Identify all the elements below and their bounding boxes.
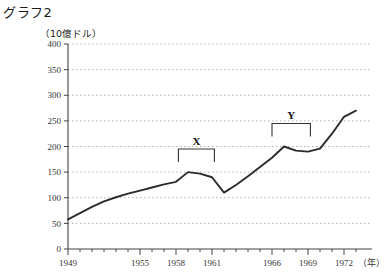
y-axis-tick-label: 150	[48, 167, 62, 177]
y-axis-tick-label: 50	[52, 219, 62, 229]
x-axis-group: 1949195519581961196619691972（年）	[59, 44, 384, 268]
gridlines-group	[68, 44, 372, 223]
x-axis-tick-label: 1961	[203, 258, 221, 268]
y-axis-tick-label: 0	[57, 244, 62, 254]
x-axis-tick-label: 1955	[131, 258, 150, 268]
y-axis-tick-label: 300	[48, 90, 62, 100]
x-axis-tick-label: 1966	[263, 258, 282, 268]
annotation-label: Y	[287, 109, 295, 121]
x-axis-tick-label: 1958	[167, 258, 186, 268]
y-axis-tick-label: 350	[48, 65, 62, 75]
annotation-bracket	[272, 123, 310, 136]
annotations-group: XY	[178, 109, 310, 162]
annotation-label: X	[192, 135, 200, 147]
x-axis-tick-label: 1972	[335, 258, 353, 268]
chart-page: グラフ2 （10億ドル） 050100150200250300350400 19…	[0, 0, 384, 272]
y-axis-ticks-group: 050100150200250300350400	[48, 39, 69, 254]
data-line	[68, 111, 356, 220]
line-chart: 050100150200250300350400 194919551958196…	[0, 0, 384, 272]
x-axis-tick-label: 1969	[299, 258, 318, 268]
y-axis-tick-label: 100	[48, 193, 62, 203]
y-axis-tick-label: 200	[48, 142, 62, 152]
y-axis-tick-label: 250	[48, 116, 62, 126]
x-axis-tick-label: 1949	[59, 258, 78, 268]
annotation-bracket	[178, 149, 214, 162]
data-series-group	[68, 111, 356, 220]
y-axis-tick-label: 400	[48, 39, 62, 49]
x-axis-unit-label: （年）	[358, 257, 384, 268]
